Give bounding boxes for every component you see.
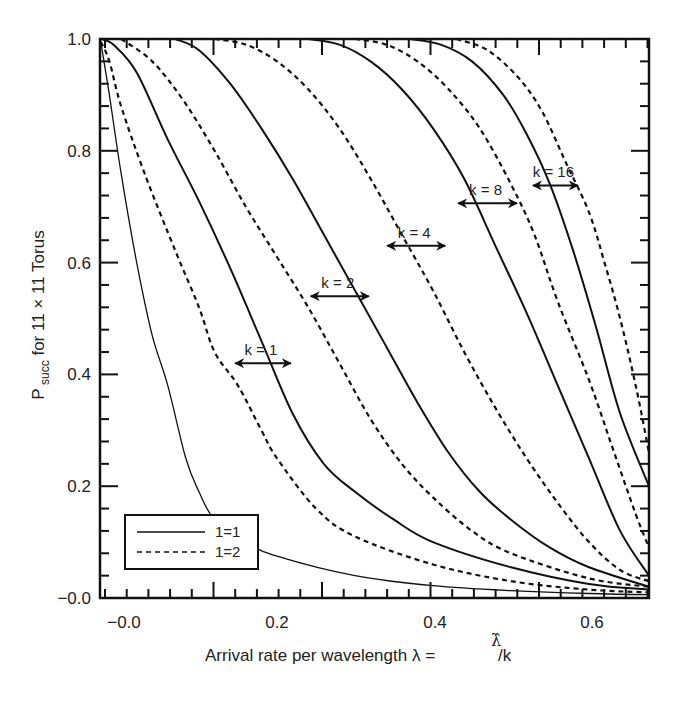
y-tick-label: 1.0 — [67, 30, 91, 49]
chart: k = 1k = 2k = 4k = 8k = 16 −0.00.20.40.6… — [0, 0, 685, 705]
y-label-p: P — [29, 388, 48, 399]
annotations: k = 1k = 2k = 4k = 8k = 16 — [235, 163, 578, 363]
legend-label-dashed: 1=2 — [215, 543, 240, 560]
x-tick-label: −0.0 — [107, 613, 141, 632]
y-tick-label: 0.2 — [67, 477, 91, 496]
annotation-label: k = 8 — [469, 181, 502, 198]
curve-k8-dashed — [355, 39, 649, 548]
x-tick-label: 0.2 — [265, 613, 289, 632]
curve-k1-solid — [101, 42, 649, 595]
y-tick-label: −0.0 — [57, 589, 91, 608]
legend: 1=1 1=2 — [125, 515, 258, 569]
y-tick-label: 0.4 — [67, 365, 91, 384]
curve-k1-dashed — [101, 42, 649, 593]
curve-k2-solid — [101, 39, 649, 590]
annotation-label: k = 2 — [321, 274, 354, 291]
y-label-sub: succ — [38, 360, 52, 388]
annotation-label: k = 4 — [398, 224, 431, 241]
annotation-label: k = 1 — [245, 341, 278, 358]
y-axis-label: P succ for 11 × 11 Torus — [29, 230, 52, 399]
x-axis-label: Arrival rate per wavelength λ = — [205, 646, 435, 665]
x-axis-label-text: Arrival rate per wavelength λ = — [205, 646, 435, 665]
x-tick-label: 0.6 — [580, 613, 604, 632]
annotation-label: k = 16 — [533, 163, 574, 180]
per-k-text: /k — [498, 646, 512, 665]
y-tick-label: 0.6 — [67, 254, 91, 273]
x-tick-label: 0.4 — [423, 613, 447, 632]
curves — [101, 39, 649, 595]
curve-k4-solid — [176, 39, 649, 587]
x-axis-title: Arrival rate per wavelength λ = λ̂ /k — [205, 631, 512, 665]
y-tick-label: 0.8 — [67, 142, 91, 161]
curve-k4-dashed — [215, 39, 649, 581]
legend-label-solid: 1=1 — [215, 523, 240, 540]
y-label-rest: for 11 × 11 Torus — [29, 230, 48, 360]
curve-k16-solid — [410, 39, 649, 486]
y-axis-title: P succ for 11 × 11 Torus — [29, 230, 52, 399]
